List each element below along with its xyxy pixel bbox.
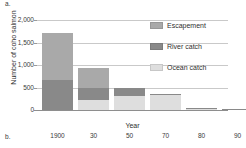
x-tick-label-1900: 1900: [42, 133, 73, 140]
x-axis-title: Year: [37, 122, 228, 129]
bar-segment-ocean-catch: [222, 109, 246, 110]
bar-segment-ocean-catch: [114, 96, 145, 110]
bar-segment-escapement: [42, 33, 73, 80]
bar-segment-escapement: [78, 68, 109, 88]
x-tick-label-80: 80: [186, 133, 217, 140]
legend-label-ocean-catch: Ocean catch: [167, 64, 206, 71]
y-tick-label: 0: [4, 107, 34, 114]
x-tick-label-70: 70: [150, 133, 181, 140]
y-tick-label: 500: [4, 85, 34, 92]
bar-90: [222, 109, 246, 110]
y-tick-mark: [34, 65, 37, 66]
bar-segment-ocean-catch: [78, 100, 109, 110]
legend-swatch-river-catch: [150, 43, 163, 50]
bar-80: [186, 108, 217, 110]
y-tick-label: 1,500: [4, 40, 34, 47]
legend-swatch-escapement: [150, 22, 163, 29]
bar-1900: [42, 33, 73, 110]
gridline-2000: [37, 20, 228, 21]
y-tick-mark: [34, 88, 37, 89]
legend-label-escapement: Escapement: [167, 22, 206, 29]
figure-root: a. Number of coho salmon 2,000 1,500 1,0…: [0, 0, 246, 148]
bar-segment-ocean-catch: [150, 95, 181, 110]
x-tick-label-30: 30: [78, 133, 109, 140]
y-tick-mark: [34, 20, 37, 21]
y-axis-ticks: 2,000 1,500 1,000 500 0: [0, 20, 34, 110]
y-tick-label: 1,000: [4, 62, 34, 69]
bar-segment-ocean-catch: [186, 108, 217, 110]
x-axis-line: [34, 110, 228, 111]
x-tick-label-90: 90: [222, 133, 246, 140]
y-tick-mark: [34, 43, 37, 44]
bar-50: [114, 88, 145, 110]
legend-item-escapement[interactable]: Escapement: [150, 22, 206, 29]
legend-label-river-catch: River catch: [167, 43, 202, 50]
bar-segment-river-catch: [42, 80, 73, 110]
x-tick-label-50: 50: [114, 133, 145, 140]
panel-label-b: b.: [5, 133, 11, 140]
legend-item-river-catch[interactable]: River catch: [150, 43, 202, 50]
bar-30: [78, 68, 109, 110]
y-tick-label: 2,000: [4, 17, 34, 24]
bar-70: [150, 94, 181, 110]
bar-segment-river-catch: [78, 88, 109, 100]
legend-item-ocean-catch[interactable]: Ocean catch: [150, 64, 206, 71]
legend-swatch-ocean-catch: [150, 64, 163, 71]
bar-segment-river-catch: [150, 94, 181, 95]
bar-segment-river-catch: [114, 88, 145, 96]
